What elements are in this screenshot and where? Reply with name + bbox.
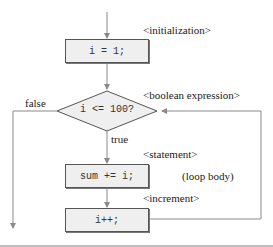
- statement-code: sum += i;: [80, 171, 134, 182]
- statement-annotation: <statement>: [143, 148, 198, 160]
- false-label: false: [25, 97, 46, 109]
- increment-annotation: <increment>: [143, 192, 199, 204]
- increment-box: i++;: [65, 208, 149, 232]
- init-box: i = 1;: [65, 39, 149, 63]
- flowchart-canvas: i = 1; <initialization> i <= 100? <boole…: [0, 0, 273, 247]
- loop-body-label: (loop body): [182, 170, 234, 182]
- increment-code: i++;: [95, 215, 119, 226]
- condition-annotation: <boolean expression>: [143, 89, 240, 101]
- init-code: i = 1;: [89, 46, 125, 57]
- init-annotation: <initialization>: [143, 24, 211, 36]
- statement-box: sum += i;: [65, 164, 149, 188]
- condition-code: i <= 100?: [80, 104, 134, 115]
- true-label: true: [111, 133, 128, 145]
